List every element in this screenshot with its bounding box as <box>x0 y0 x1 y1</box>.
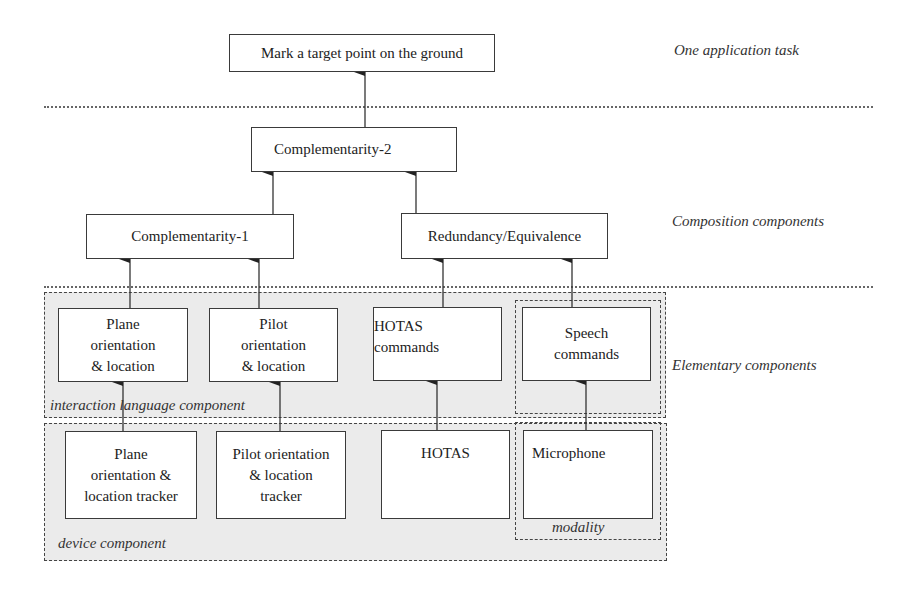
microphone-label: Microphone <box>532 443 605 464</box>
complementarity-2-box: Complementarity-2 <box>251 127 457 172</box>
line: Speech <box>565 323 608 344</box>
hotas-device-box: HOTAS <box>381 430 510 519</box>
line: commands <box>374 337 439 358</box>
complementarity-2-label: Complementarity-2 <box>274 139 391 160</box>
line: HOTAS <box>374 316 423 337</box>
line: & location <box>249 465 313 486</box>
hotas-commands-box: HOTAS commands <box>373 307 502 381</box>
redundancy-equivalence-box: Redundancy/Equivalence <box>401 213 608 259</box>
line: Pilot orientation <box>232 444 329 465</box>
line: Pilot <box>259 314 287 335</box>
line: & location <box>242 356 306 377</box>
plane-tracker-box: Plane orientation & location tracker <box>65 431 197 519</box>
line: orientation <box>241 335 306 356</box>
redundancy-equivalence-label: Redundancy/Equivalence <box>428 226 581 247</box>
line: tracker <box>260 486 302 507</box>
hotas-device-label: HOTAS <box>421 443 470 464</box>
line: orientation & <box>91 465 171 486</box>
pilot-tracker-box: Pilot orientation & location tracker <box>216 431 346 519</box>
line: & location <box>91 356 155 377</box>
task-label: Mark a target point on the ground <box>261 43 463 64</box>
speech-commands-box: Speech commands <box>522 307 651 381</box>
line: orientation <box>91 335 156 356</box>
line: location tracker <box>84 486 178 507</box>
task-box: Mark a target point on the ground <box>229 34 495 72</box>
microphone-box: Microphone <box>523 430 653 519</box>
line: commands <box>554 344 619 365</box>
line: Plane <box>106 314 139 335</box>
complementarity-1-label: Complementarity-1 <box>131 226 248 247</box>
plane-orientation-location-box: Plane orientation & location <box>58 308 188 382</box>
line: Plane <box>114 444 147 465</box>
pilot-orientation-location-box: Pilot orientation & location <box>209 308 338 382</box>
complementarity-1-box: Complementarity-1 <box>86 214 294 259</box>
